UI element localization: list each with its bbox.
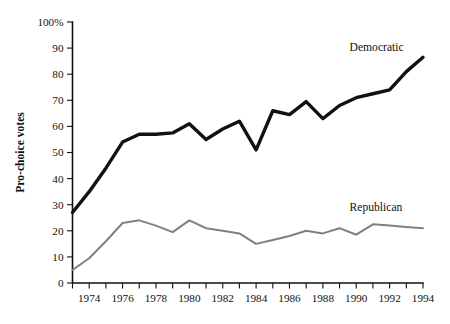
series-label-democratic: Democratic: [350, 41, 404, 54]
x-tick-label: 1974: [78, 292, 101, 304]
y-tick-label: 80: [52, 68, 64, 80]
x-tick-label: 1976: [111, 292, 134, 304]
x-tick-label: 1992: [378, 292, 400, 304]
x-tick-label: 1988: [312, 292, 335, 304]
x-tick-label: 1982: [212, 292, 234, 304]
x-tick-label: 1984: [245, 292, 268, 304]
x-tick-label: 1978: [145, 292, 168, 304]
line-chart: 0102030405060708090100% 1974197619781980…: [0, 0, 450, 324]
chart-axes: [73, 22, 424, 283]
y-tick-label: 20: [52, 225, 64, 237]
y-tick-label: 40: [52, 173, 64, 185]
x-tick-label: 1986: [278, 292, 301, 304]
y-tick-label: 100%: [37, 16, 63, 28]
x-tick-label: 1980: [178, 292, 201, 304]
y-tick-label: 0: [58, 277, 64, 289]
y-tick-label: 60: [52, 120, 64, 132]
y-tick-label: 90: [52, 42, 64, 54]
y-tick-label: 10: [52, 251, 64, 263]
x-tick-label: 1994: [412, 292, 435, 304]
series-label-republican: Republican: [350, 201, 403, 214]
y-tick-label: 70: [52, 94, 64, 106]
series-line-republican: [73, 220, 424, 270]
y-axis-ticks: 0102030405060708090100%: [37, 16, 72, 289]
chart-container: 0102030405060708090100% 1974197619781980…: [0, 0, 450, 324]
y-axis-title-text: Pro-choice votes: [14, 112, 27, 193]
series-line-democratic: [73, 57, 424, 212]
axis-lines: [73, 22, 424, 283]
x-axis-ticks: 1974197619781980198219841986198819901992…: [73, 283, 435, 304]
x-tick-label: 1990: [345, 292, 368, 304]
y-tick-label: 30: [52, 199, 64, 211]
y-axis-title: Pro-choice votes: [14, 112, 27, 193]
series-labels: DemocraticRepublican: [350, 41, 404, 215]
y-tick-label: 50: [52, 146, 64, 158]
chart-series: [73, 57, 424, 270]
